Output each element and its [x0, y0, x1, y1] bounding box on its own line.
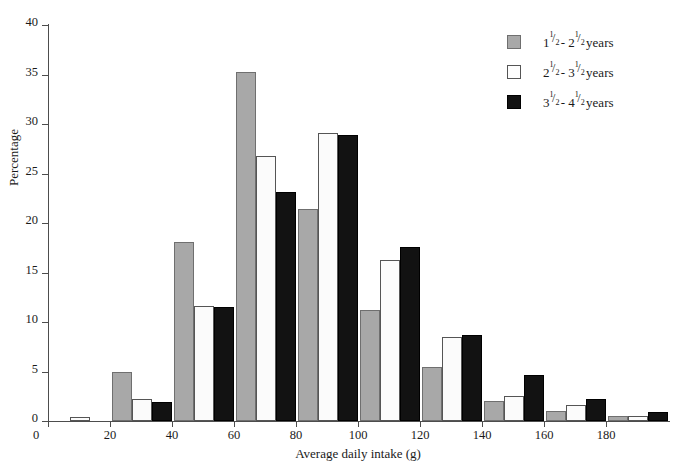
fraction: 1/2: [575, 34, 583, 47]
bar: [400, 247, 420, 421]
x-tick-label: 20: [92, 429, 128, 442]
bar-chart: 0510152025303540 02040608010012014016018…: [0, 0, 676, 471]
bar: [586, 399, 606, 421]
bar: [112, 372, 132, 422]
x-tick-label: 0: [33, 429, 53, 442]
bar: [236, 72, 256, 421]
y-tick-label: 5: [32, 363, 38, 375]
bar: [318, 133, 338, 421]
bar: [276, 192, 296, 421]
bar: [484, 401, 504, 421]
x-axis-title: Average daily intake (g): [48, 446, 668, 462]
bar: [524, 375, 544, 421]
legend-label: 31/2 - 41/2 years: [543, 94, 614, 111]
y-axis-title: Percentage: [6, 129, 22, 186]
x-tick-label: 40: [154, 429, 190, 442]
gray-swatch: [507, 35, 521, 49]
x-tick-mark: [234, 421, 235, 427]
x-tick-label: 140: [464, 429, 500, 442]
bar: [380, 260, 400, 421]
y-tick-label: 20: [26, 214, 39, 226]
bar: [546, 411, 566, 421]
legend-item[interactable]: 31/2 - 41/2 years: [507, 87, 672, 117]
x-tick-label: 100: [340, 429, 376, 442]
bar: [648, 412, 668, 421]
x-tick-mark: [606, 421, 607, 427]
fraction: 1/2: [550, 94, 558, 107]
fraction: 1/2: [550, 34, 558, 47]
x-tick-label: 160: [526, 429, 562, 442]
bar: [152, 402, 172, 421]
x-tick-mark: [48, 421, 49, 427]
x-tick-label: 60: [216, 429, 252, 442]
bar: [132, 399, 152, 421]
legend: 11/2 - 21/2 years21/2 - 31/2 years31/2 -…: [507, 27, 672, 117]
legend-label: 21/2 - 31/2 years: [543, 64, 614, 81]
bar: [360, 310, 380, 421]
bar: [194, 306, 214, 421]
fraction: 1/2: [575, 94, 583, 107]
y-tick-label: 15: [26, 264, 39, 276]
legend-item[interactable]: 21/2 - 31/2 years: [507, 57, 672, 87]
x-tick-mark: [110, 421, 111, 427]
bar: [256, 156, 276, 421]
bar: [70, 417, 90, 421]
bar: [504, 396, 524, 421]
bar: [608, 416, 628, 421]
bar: [442, 337, 462, 421]
y-tick-label: 0: [32, 412, 38, 424]
x-tick-mark: [358, 421, 359, 427]
bar: [174, 242, 194, 421]
bar: [214, 307, 234, 421]
y-tick-label: 10: [26, 313, 39, 325]
x-tick-mark: [544, 421, 545, 427]
bar: [628, 416, 648, 421]
fraction: 1/2: [550, 64, 558, 77]
white-swatch: [507, 65, 521, 79]
bar: [566, 405, 586, 421]
x-tick-mark: [482, 421, 483, 427]
legend-label: 11/2 - 21/2 years: [543, 34, 614, 51]
bar: [422, 367, 442, 421]
x-tick-label: 180: [588, 429, 624, 442]
bar: [298, 209, 318, 421]
legend-item[interactable]: 11/2 - 21/2 years: [507, 27, 672, 57]
y-tick-label: 30: [26, 115, 39, 127]
bar: [462, 335, 482, 421]
x-axis-line: [48, 421, 670, 422]
x-tick-label: 80: [278, 429, 314, 442]
fraction: 1/2: [575, 64, 583, 77]
bar: [338, 135, 358, 421]
y-tick-label: 35: [26, 66, 39, 78]
x-tick-mark: [172, 421, 173, 427]
x-tick-label: 120: [402, 429, 438, 442]
black-swatch: [507, 95, 521, 109]
y-tick-label: 25: [26, 165, 39, 177]
x-tick-mark: [296, 421, 297, 427]
y-tick-label: 40: [26, 16, 39, 28]
x-tick-mark: [420, 421, 421, 427]
